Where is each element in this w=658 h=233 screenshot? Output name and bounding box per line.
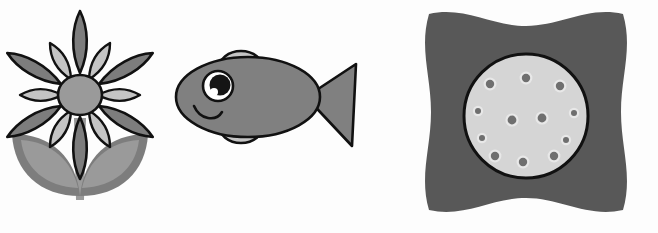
- lotus-seed: [571, 110, 577, 116]
- lotus-seed: [550, 152, 558, 160]
- lotus-seed: [479, 135, 485, 141]
- fish-body: [176, 57, 320, 137]
- lotus-seed: [491, 152, 499, 160]
- lotus-seed: [486, 80, 494, 88]
- inner-petal-5: [20, 89, 62, 100]
- flower-center-disc: [58, 75, 102, 115]
- lotus-seed: [563, 137, 569, 143]
- lotus-seed: [522, 74, 530, 82]
- lotus-pod-svg: [395, 0, 658, 233]
- fish-eye-highlight: [210, 88, 218, 96]
- lotus-pod-figure: [395, 0, 658, 233]
- outer-petal-1: [73, 11, 87, 73]
- fish-figure: [160, 0, 380, 233]
- inner-petal-2: [98, 89, 140, 100]
- lotus-seed: [556, 82, 564, 90]
- outer-petal-4: [73, 117, 87, 179]
- fish-svg: [160, 0, 380, 233]
- lotus-seed: [508, 116, 517, 125]
- fish-group: [176, 51, 356, 146]
- lotus-seed: [538, 114, 547, 123]
- lotus-seed: [475, 108, 481, 114]
- lotus-seed: [519, 158, 527, 166]
- clipart-canvas: [0, 0, 658, 233]
